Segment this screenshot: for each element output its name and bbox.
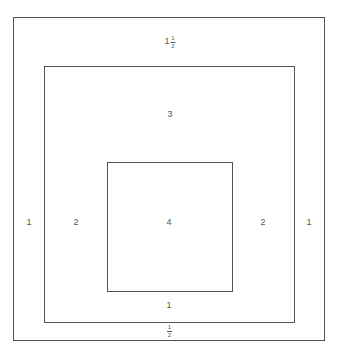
- label-right-middle: 2: [260, 218, 265, 227]
- label-top-outer: 112: [164, 35, 175, 49]
- label-left-middle: 2: [73, 218, 78, 227]
- label-center: 4: [166, 218, 171, 227]
- label-middle-top: 3: [167, 110, 172, 119]
- fraction-numerator: 1: [168, 324, 171, 330]
- inner-square: [107, 162, 233, 292]
- fraction-denominator: 2: [171, 43, 174, 49]
- fraction-denominator: 2: [168, 332, 171, 338]
- label-top-outer-whole: 1: [164, 36, 169, 46]
- label-bottom-inner: 1: [166, 301, 171, 310]
- label-top-outer-fraction: 12: [171, 35, 176, 49]
- label-right-outer: 1: [306, 218, 311, 227]
- label-bottom-outer: 12: [166, 324, 172, 338]
- label-bottom-outer-fraction: 12: [167, 324, 172, 338]
- label-left-outer: 1: [26, 218, 31, 227]
- fraction-numerator: 1: [171, 35, 174, 41]
